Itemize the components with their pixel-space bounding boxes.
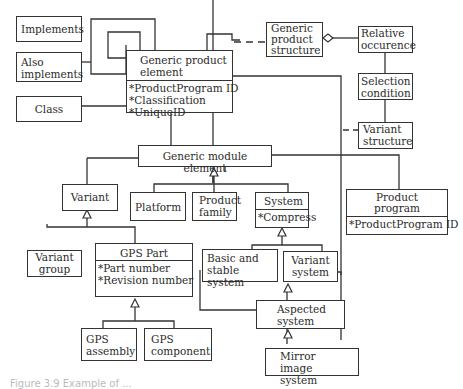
attribute-list: *Part number *Revision number <box>96 260 192 287</box>
class-gps-assembly[interactable]: GPS assembly <box>81 328 137 361</box>
generalization-arrow <box>284 330 292 338</box>
class-aspected-system[interactable]: Aspected system <box>256 300 345 329</box>
class-class[interactable]: Class <box>16 96 82 122</box>
attribute-list: *ProductProgram ID <box>347 216 447 231</box>
class-platform[interactable]: Platform <box>130 192 186 221</box>
class-mirror-image-system[interactable]: Mirror image system <box>265 348 359 376</box>
class-generic-module-element[interactable]: Generic module element <box>138 145 272 167</box>
class-system[interactable]: System *Compress <box>255 192 309 228</box>
class-implements[interactable]: Implements <box>16 16 82 42</box>
class-also-implements[interactable]: Also implements <box>16 52 82 82</box>
class-generic-product-structure[interactable]: Generic product structure <box>266 22 323 57</box>
class-variant-group[interactable]: Variant group <box>27 250 82 277</box>
class-relative-occurence[interactable]: Relative occurence <box>358 26 413 53</box>
class-product-program[interactable]: Product program *ProductProgram ID <box>346 189 448 235</box>
figure-caption: Figure 3.9 Example of ... <box>10 378 132 389</box>
generalization-arrow <box>284 284 292 292</box>
aggregation-diamond <box>323 34 333 42</box>
class-variant-structure[interactable]: Variant structure <box>358 122 413 149</box>
class-gps-part[interactable]: GPS Part *Part number *Revision number <box>95 243 193 297</box>
generalization-arrow <box>83 210 91 218</box>
class-selection-condition[interactable]: Selection condition <box>358 73 413 100</box>
class-basic-and-stable-system[interactable]: Basic and stable system <box>202 249 278 282</box>
class-variant[interactable]: Variant <box>62 184 118 211</box>
attribute-list: *Compress <box>256 209 308 224</box>
attribute-list: *ProductProgram ID *Classification *Uniq… <box>127 80 232 119</box>
class-product-family[interactable]: Product family <box>192 192 237 221</box>
generalization-arrow <box>131 299 139 307</box>
class-variant-system[interactable]: Variant system <box>283 251 338 282</box>
class-generic-product-element[interactable]: Generic product element *ProductProgram … <box>126 50 233 113</box>
generalization-arrow <box>278 228 286 236</box>
class-gps-component[interactable]: GPS component <box>144 328 212 361</box>
